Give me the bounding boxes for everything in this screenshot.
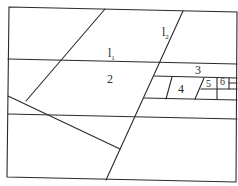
- region-2-label: 2: [107, 72, 113, 86]
- label-l2: l2: [162, 25, 169, 41]
- divider-4-left: [166, 77, 172, 99]
- partition-diagram: l1 l2 2 3 4 5 6: [0, 0, 238, 186]
- left-diagonal-line: [26, 9, 105, 101]
- strip-bottom-line: [144, 98, 237, 100]
- region-6-label: 6: [220, 76, 225, 87]
- region-4-label: 4: [178, 82, 184, 96]
- descending-line: [8, 96, 120, 149]
- region-3-label: 3: [195, 63, 201, 77]
- line-l2: [106, 11, 183, 180]
- lower-horizontal-line: [8, 114, 237, 119]
- label-l1: l1: [108, 46, 115, 62]
- line-l1: [8, 59, 237, 64]
- outer-frame: [7, 7, 237, 182]
- region-5-label: 5: [206, 78, 211, 89]
